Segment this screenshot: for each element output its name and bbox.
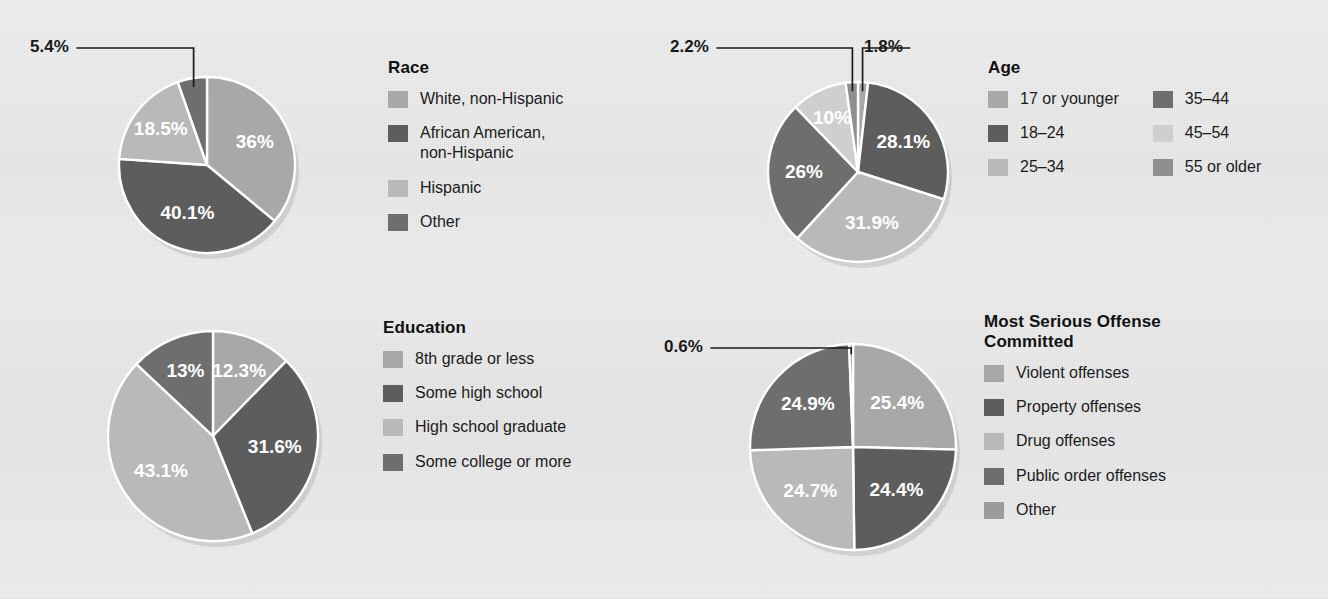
legend-education: Education 8th grade or lessSome high sch…	[383, 318, 663, 486]
legend-items-offense: Violent offensesProperty offensesDrug of…	[984, 363, 1304, 534]
chart-panel-offense: 25.4%24.4%24.7%24.9%0.6%	[650, 300, 1010, 599]
legend-item[interactable]: 25–34	[988, 157, 1119, 177]
callout-percent-label: 2.2%	[670, 37, 709, 56]
legend-item-label: 55 or older	[1185, 157, 1262, 177]
chart-panel-education: 12.3%31.6%43.1%13%	[0, 300, 360, 599]
legend-item[interactable]: Property offenses	[984, 397, 1166, 417]
legend-item-label: Hispanic	[420, 178, 481, 198]
legend-swatch	[988, 125, 1008, 142]
callout-percent-label: 1.8%	[864, 37, 903, 56]
legend-item-label: 35–44	[1185, 89, 1230, 109]
legend-item-label: Other	[1016, 500, 1056, 520]
legend-item[interactable]: 35–44	[1153, 89, 1262, 109]
legend-swatch	[383, 454, 403, 471]
pie-chart-race: 36%40.1%18.5%5.4%	[0, 0, 360, 290]
legend-swatch	[388, 180, 408, 197]
legend-item-label: Some high school	[415, 383, 542, 403]
legend-item[interactable]: Violent offenses	[984, 363, 1166, 383]
callout-percent-label: 0.6%	[664, 337, 703, 356]
legend-swatch	[984, 433, 1004, 450]
legend-swatch	[984, 399, 1004, 416]
legend-column: 35–4445–5455 or older	[1153, 89, 1262, 191]
legend-item-label: High school graduate	[415, 417, 566, 437]
legend-race: Race White, non-HispanicAfrican American…	[388, 58, 658, 246]
legend-item-label: Drug offenses	[1016, 431, 1115, 451]
legend-title-race: Race	[388, 58, 658, 78]
legend-item[interactable]: 55 or older	[1153, 157, 1262, 177]
slice-percent-label: 28.1%	[876, 131, 930, 152]
slice-percent-label: 31.9%	[845, 212, 899, 233]
legend-swatch	[1153, 159, 1173, 176]
legend-item[interactable]: 18–24	[988, 123, 1119, 143]
legend-items-race: White, non-HispanicAfrican American, non…	[388, 89, 658, 246]
legend-swatch	[984, 502, 1004, 519]
legend-column: 8th grade or lessSome high schoolHigh sc…	[383, 349, 572, 486]
slice-percent-label: 18.5%	[134, 118, 188, 139]
legend-title-offense: Most Serious Offense Committed	[984, 312, 1304, 352]
legend-item-label: Some college or more	[415, 452, 572, 472]
legend-item[interactable]: 8th grade or less	[383, 349, 572, 369]
legend-item[interactable]: Some high school	[383, 383, 572, 403]
slice-percent-label: 10%	[813, 107, 851, 128]
slice-percent-label: 26%	[785, 161, 823, 182]
legend-swatch	[1153, 125, 1173, 142]
legend-column: 17 or younger18–2425–34	[988, 89, 1119, 191]
legend-title-education: Education	[383, 318, 663, 338]
legend-column: White, non-HispanicAfrican American, non…	[388, 89, 563, 246]
legend-item-label: 17 or younger	[1020, 89, 1119, 109]
slice-percent-label: 12.3%	[212, 360, 266, 381]
legend-item[interactable]: Other	[388, 212, 563, 232]
legend-swatch	[388, 214, 408, 231]
legend-swatch	[984, 468, 1004, 485]
legend-items-education: 8th grade or lessSome high schoolHigh sc…	[383, 349, 663, 486]
legend-item-label: Other	[420, 212, 460, 232]
slice-percent-label: 31.6%	[248, 436, 302, 457]
pie-chart-age: 28.1%31.9%26%10%2.2%1.8%	[650, 0, 1010, 290]
legend-item-label: Violent offenses	[1016, 363, 1129, 383]
chart-panel-race: 36%40.1%18.5%5.4%	[0, 0, 360, 290]
legend-item[interactable]: 45–54	[1153, 123, 1262, 143]
slice-percent-label: 40.1%	[160, 202, 214, 223]
legend-item[interactable]: Other	[984, 500, 1166, 520]
slice-percent-label: 24.9%	[781, 393, 835, 414]
callout-percent-label: 5.4%	[30, 37, 69, 56]
legend-swatch	[984, 365, 1004, 382]
legend-item[interactable]: Drug offenses	[984, 431, 1166, 451]
legend-swatch	[388, 125, 408, 142]
legend-offense: Most Serious Offense Committed Violent o…	[984, 312, 1304, 534]
pie-chart-offense: 25.4%24.4%24.7%24.9%0.6%	[650, 300, 1010, 599]
legend-item[interactable]: Hispanic	[388, 178, 563, 198]
legend-item-label: 25–34	[1020, 157, 1065, 177]
slice-percent-label: 24.4%	[869, 479, 923, 500]
legend-title-age: Age	[988, 58, 1318, 78]
legend-swatch	[383, 419, 403, 436]
slice-percent-label: 43.1%	[134, 460, 188, 481]
slice-percent-label: 13%	[166, 360, 204, 381]
slice-percent-label: 36%	[236, 131, 274, 152]
legend-item[interactable]: African American, non-Hispanic	[388, 123, 563, 163]
legend-items-age: 17 or younger18–2425–3435–4445–5455 or o…	[988, 89, 1318, 191]
legend-item[interactable]: 17 or younger	[988, 89, 1119, 109]
legend-item[interactable]: Some college or more	[383, 452, 572, 472]
slice-percent-label: 25.4%	[870, 392, 924, 413]
chart-panel-age: 28.1%31.9%26%10%2.2%1.8%	[650, 0, 1010, 290]
legend-item[interactable]: Public order offenses	[984, 466, 1166, 486]
pie-chart-education: 12.3%31.6%43.1%13%	[0, 300, 360, 599]
legend-swatch	[383, 385, 403, 402]
legend-item[interactable]: White, non-Hispanic	[388, 89, 563, 109]
legend-swatch	[988, 159, 1008, 176]
legend-item-label: 8th grade or less	[415, 349, 534, 369]
slice-percent-label: 24.7%	[783, 480, 837, 501]
legend-item-label: 45–54	[1185, 123, 1230, 143]
legend-item-label: White, non-Hispanic	[420, 89, 563, 109]
legend-item-label: 18–24	[1020, 123, 1065, 143]
legend-age: Age 17 or younger18–2425–3435–4445–5455 …	[988, 58, 1318, 192]
legend-item[interactable]: High school graduate	[383, 417, 572, 437]
legend-column: Violent offensesProperty offensesDrug of…	[984, 363, 1166, 534]
legend-swatch	[388, 91, 408, 108]
figure-sheet: 36%40.1%18.5%5.4% Race White, non-Hispan…	[0, 0, 1328, 599]
legend-item-label: Public order offenses	[1016, 466, 1166, 486]
legend-item-label: African American, non-Hispanic	[420, 123, 545, 163]
legend-swatch	[988, 91, 1008, 108]
legend-swatch	[1153, 91, 1173, 108]
